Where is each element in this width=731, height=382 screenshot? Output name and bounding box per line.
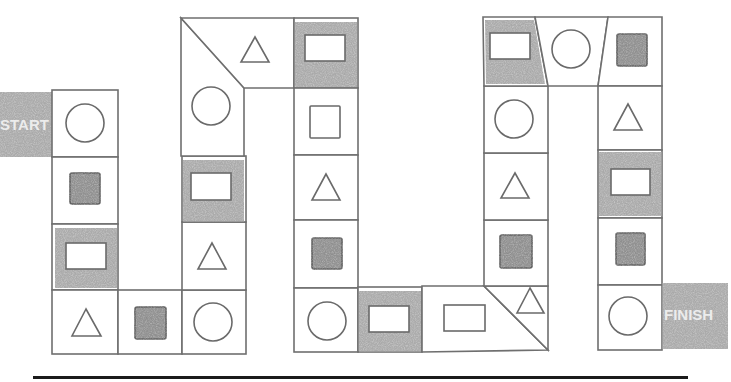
circle-icon [552,30,590,68]
space-4[interactable] [52,290,118,354]
filled-square-icon [500,235,532,268]
space-8[interactable] [182,156,246,222]
rectangle-icon [191,173,231,200]
space-5[interactable] [118,290,182,354]
circle-icon [192,87,230,125]
space-21[interactable] [484,86,548,153]
space-28[interactable] [598,285,662,350]
rectangle-icon [369,306,409,332]
space-2[interactable] [52,157,118,224]
start-label: START [0,116,49,133]
square-icon [310,106,340,138]
space-3[interactable] [52,224,118,290]
filled-square-icon [616,233,645,265]
rectangle-icon [490,33,530,59]
circle-icon [308,302,346,340]
start-space[interactable]: START [0,92,53,157]
space-23[interactable] [535,17,608,86]
filled-square-icon [312,238,342,269]
space-20[interactable] [484,153,548,220]
rectangle-icon [444,305,485,331]
rectangle-icon [305,35,345,61]
circle-icon [609,297,647,335]
space-26[interactable] [598,150,662,218]
space-24[interactable] [598,17,662,86]
rectangle-icon [611,169,650,195]
filled-square-icon [617,34,647,66]
space-19[interactable] [484,220,548,286]
space-1[interactable] [52,90,118,157]
divider-line [33,376,688,379]
space-25[interactable] [598,86,662,150]
rectangle-icon [66,243,106,269]
circle-icon [66,104,104,142]
space-11[interactable] [294,18,358,88]
filled-square-icon [70,173,100,204]
circle-icon [495,100,533,138]
space-12[interactable] [294,88,358,155]
filled-square-icon [135,307,166,339]
space-15[interactable] [294,288,358,352]
circle-icon [194,303,232,341]
space-6[interactable] [182,290,246,354]
space-7[interactable] [182,222,246,290]
game-board: START [0,0,731,382]
space-13[interactable] [294,155,358,220]
space-27[interactable] [598,218,662,285]
finish-space[interactable]: FINISH [662,283,728,349]
space-14[interactable] [294,220,358,288]
space-16[interactable] [358,287,422,352]
finish-label: FINISH [664,306,713,323]
